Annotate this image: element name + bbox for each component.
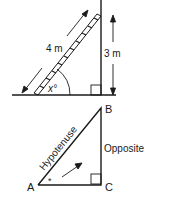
angle-label: x°	[47, 83, 57, 94]
height-label: 3 m	[104, 48, 121, 59]
right-angle-marker	[91, 85, 101, 95]
ladder-diagram: x° 4 m 3 m	[12, 0, 121, 95]
opposite-label: Opposite	[104, 143, 144, 154]
ladder-length-label: 4 m	[46, 43, 63, 54]
right-angle-marker-c	[91, 174, 101, 184]
vertex-c-label: C	[105, 181, 113, 193]
vertex-b-label: B	[105, 103, 112, 115]
direction-arrow	[62, 163, 82, 177]
angle-arc	[57, 69, 70, 95]
hypotenuse-label: Hypotenuse	[37, 124, 79, 173]
angle-marker: *	[48, 176, 52, 186]
triangle-abc: A B C Hypotenuse Opposite *	[27, 103, 144, 193]
trig-diagram: x° 4 m 3 m A B C Hypotenuse Opposite *	[0, 0, 177, 201]
vertex-a-label: A	[27, 181, 35, 193]
